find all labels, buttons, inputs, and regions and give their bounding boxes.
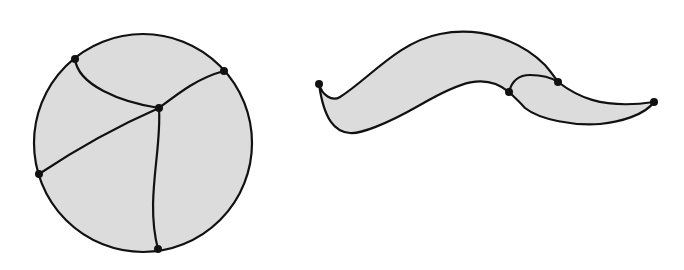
graph-vertex bbox=[315, 80, 323, 88]
graph-vertex bbox=[35, 170, 43, 178]
graph-vertex bbox=[220, 67, 228, 75]
graph-vertex bbox=[155, 104, 163, 112]
disk-graph bbox=[34, 34, 252, 253]
graph-vertex bbox=[505, 88, 513, 96]
graph-vertex bbox=[154, 245, 162, 253]
disk-boundary bbox=[34, 34, 252, 252]
graph-vertex bbox=[554, 78, 562, 86]
figure-canvas bbox=[0, 0, 684, 270]
wavy-band-graph bbox=[315, 32, 658, 133]
band-boundary bbox=[319, 32, 654, 133]
graph-vertex bbox=[71, 55, 79, 63]
graph-vertex bbox=[650, 98, 658, 106]
